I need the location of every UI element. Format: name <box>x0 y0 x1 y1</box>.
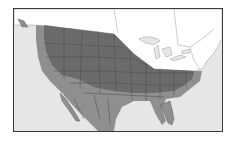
map-frame: Species range map <box>13 8 223 132</box>
range-map <box>14 9 222 131</box>
